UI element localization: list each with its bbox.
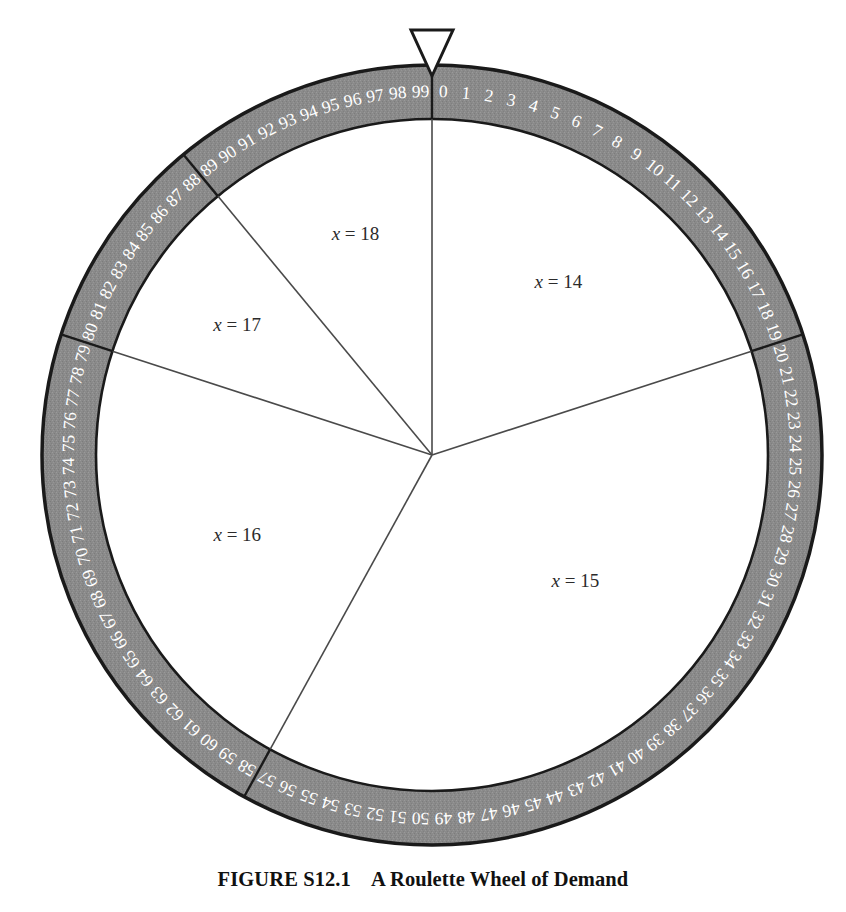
sector-value-label: x = 14: [534, 271, 583, 292]
rim-number: 25: [786, 457, 807, 475]
sector-value-label: x = 15: [551, 569, 600, 590]
roulette-wheel-diagram: 0123456789101112131415161718192021222324…: [0, 0, 846, 912]
rim-number: 74: [58, 457, 79, 475]
rim-number: 72: [61, 502, 83, 522]
rim-number: 76: [59, 411, 81, 431]
figure-container: 0123456789101112131415161718192021222324…: [0, 0, 846, 912]
rim-number: 47: [478, 803, 499, 826]
figure-caption: FIGURE S12.1 A Roulette Wheel of Demand: [0, 868, 846, 891]
rim-number: 22: [780, 388, 802, 408]
rim-number: 23: [784, 411, 806, 431]
rim-number: 77: [61, 388, 84, 409]
sector-value-label: x = 18: [331, 222, 380, 243]
rim-number: 27: [780, 502, 803, 523]
rim-number: 26: [784, 480, 806, 500]
rim-number: 48: [456, 807, 476, 829]
rim-number: 75: [58, 434, 79, 452]
rim-number: 51: [388, 807, 407, 829]
rim-number: 50: [411, 809, 429, 830]
rim-number: 52: [365, 803, 385, 825]
rim-number: 97: [365, 84, 386, 107]
rim-number: 73: [59, 479, 81, 499]
sector-value-label: x = 16: [212, 523, 261, 544]
rim-number: 0: [439, 81, 449, 101]
figure-caption-title: A Roulette Wheel of Demand: [371, 868, 628, 890]
rim-number: 1: [461, 82, 472, 103]
wheel-group: 0123456789101112131415161718192021222324…: [42, 30, 822, 845]
rim-number: 49: [434, 809, 452, 830]
rim-number: 98: [388, 82, 408, 104]
figure-caption-number: FIGURE S12.1: [218, 868, 351, 890]
rim-number: 24: [786, 435, 807, 453]
rim-number: 99: [412, 81, 430, 102]
sector-value-label: x = 17: [212, 313, 261, 334]
